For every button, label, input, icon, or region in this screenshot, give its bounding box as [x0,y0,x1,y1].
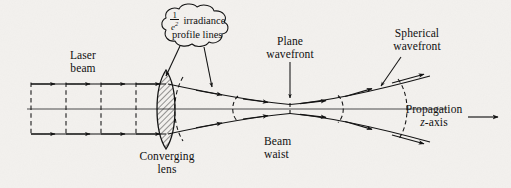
callout-arrows [166,46,212,87]
label-spherical-wavefront: Spherical wavefront [378,27,456,53]
beam-edge-lower-converging [168,114,290,135]
label-plane-wavefront-line1: Plane [277,35,303,47]
beam-edge-upper-diverging [290,76,430,105]
label-converging-lens: Converging lens [131,150,203,176]
beam-edge-upper-converging [168,84,290,105]
callout-text-line1: irradiance [183,15,225,26]
callout-arrow-to-lens [166,46,180,76]
label-beam-waist: Beam waist [264,135,316,161]
label-laser-beam-line2: beam [70,62,95,74]
label-propagation-axis: Propagation z-axis [400,103,468,129]
callout-fraction-numerator: 1 [170,11,179,20]
converging-lens [157,70,175,149]
label-propagation-line1: Propagation [406,103,463,115]
label-converging-lens-line1: Converging [139,150,194,162]
label-spherical-wavefront-line2: wavefront [393,40,441,52]
label-converging-lens-line2: lens [158,163,177,175]
label-propagation-axis-suffix: -axis [425,116,448,128]
callout-content-line2: profile lines [172,29,222,41]
label-laser-beam: Laser beam [56,49,110,75]
label-beam-waist-line1: Beam [264,135,291,147]
callout-arrow-to-beam [204,47,212,87]
callout-fraction-exponent: 2 [175,20,178,27]
label-spherical-wavefront-line1: Spherical [395,27,439,39]
label-plane-wavefront-line2: wavefront [266,48,314,60]
label-plane-wavefront: Plane wavefront [254,35,326,61]
callout-text-line2: profile lines [172,29,222,40]
label-laser-beam-line1: Laser [70,49,96,61]
label-beam-waist-line2: waist [264,148,289,160]
